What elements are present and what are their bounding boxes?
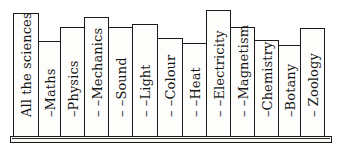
book-label: – –Heat [188, 67, 201, 117]
book-physics: –Physics [60, 27, 85, 137]
book-maths: –Maths [38, 41, 61, 137]
bookshelf-diagram: All the sciences–Maths–Physics– –Mechani… [0, 0, 341, 150]
book-label: –Physics [66, 60, 79, 117]
book-label: – –Magnetism [236, 25, 249, 117]
book-mechanics: – –Mechanics [84, 17, 109, 137]
book-label: – –Mechanics [90, 28, 103, 117]
book-label: – Zoology [306, 53, 319, 117]
book-heat: – –Heat [182, 43, 207, 137]
shelf-inner-line [12, 138, 330, 139]
book-label: –Maths [43, 69, 56, 117]
book-sound: – –Sound [108, 27, 133, 137]
book-colour: – –Colour [157, 38, 183, 137]
book-label: – –Sound [114, 57, 127, 117]
book-label: – –Electricity [212, 30, 225, 117]
book-label: –Chemistry [260, 42, 273, 117]
book-label: All the sciences [20, 12, 33, 117]
book-botany: –Botany [278, 45, 301, 137]
book-zoology: – Zoology [300, 28, 325, 137]
book-all-the-sciences: All the sciences [13, 13, 39, 137]
book-light: – –Light [132, 24, 158, 137]
book-magnetism: – –Magnetism [230, 27, 255, 137]
book-electricity: – –Electricity [206, 10, 231, 137]
book-label: – –Colour [164, 55, 177, 117]
book-label: –Botany [283, 64, 296, 117]
book-chemistry: –Chemistry [254, 40, 279, 137]
book-label: – –Light [139, 64, 152, 117]
